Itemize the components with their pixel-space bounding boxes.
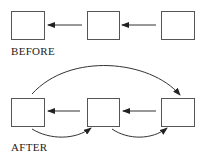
after-arc-1-to-2	[32, 128, 91, 137]
after-label: AFTER	[11, 141, 47, 153]
before-node-3	[162, 12, 195, 40]
after-arc-2-to-3	[112, 128, 167, 137]
before-label: BEFORE	[11, 45, 55, 57]
after-node-2	[88, 99, 120, 127]
after-arc-1-to-3	[32, 66, 180, 95]
after-node-3	[162, 99, 195, 127]
diagram-canvas	[0, 0, 207, 159]
before-row	[12, 12, 195, 40]
before-node-1	[12, 12, 45, 40]
after-node-1	[12, 99, 45, 127]
after-row	[12, 66, 195, 138]
before-node-2	[88, 12, 120, 40]
